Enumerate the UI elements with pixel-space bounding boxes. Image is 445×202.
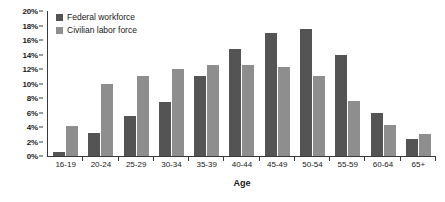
legend-label: Civilian labor force xyxy=(67,25,137,35)
y-tick-mark xyxy=(39,127,43,128)
y-tick-mark xyxy=(39,98,43,99)
y-tick-mark xyxy=(39,112,43,113)
bar-civilian xyxy=(137,76,149,156)
bar-group xyxy=(224,11,259,156)
bar-federal xyxy=(229,49,241,156)
bar-group xyxy=(330,11,365,156)
bar-group xyxy=(401,11,436,156)
bar-group xyxy=(365,11,400,156)
legend-item: Federal workforce xyxy=(56,11,137,23)
bar-civilian xyxy=(66,126,78,156)
bar-civilian xyxy=(384,125,396,156)
y-tick-mark xyxy=(39,141,43,142)
y-tick-label: 2% xyxy=(27,137,38,146)
y-tick-mark xyxy=(39,11,43,12)
bar-civilian xyxy=(101,84,113,157)
x-tick-label: 20-24 xyxy=(83,160,118,169)
x-tick-label: 25-29 xyxy=(119,160,154,169)
bar-federal xyxy=(406,139,418,156)
legend-swatch-icon xyxy=(56,14,63,21)
y-tick-label: 6% xyxy=(27,108,38,117)
y-tick-label: 4% xyxy=(27,123,38,132)
bar-civilian xyxy=(348,101,360,156)
x-tick-label: 55-59 xyxy=(330,160,365,169)
y-tick-label: 16% xyxy=(23,36,38,45)
x-tick-label: 60-64 xyxy=(365,160,400,169)
bar-group xyxy=(189,11,224,156)
bar-civilian xyxy=(278,67,290,156)
bar-civilian xyxy=(419,134,431,156)
y-tick-mark xyxy=(39,156,43,157)
legend-swatch-icon xyxy=(56,27,63,34)
x-tick-label: 16-19 xyxy=(48,160,83,169)
y-tick-label: 10% xyxy=(23,79,38,88)
bar-federal xyxy=(159,102,171,156)
y-tick-mark xyxy=(39,69,43,70)
bar-federal xyxy=(265,33,277,156)
y-tick-mark xyxy=(39,40,43,41)
bar-group xyxy=(295,11,330,156)
bar-chart: 20%18%16%14%12%10%8%6%4%2%0% 16-1920-242… xyxy=(0,0,445,202)
y-tick-mark xyxy=(39,25,43,26)
x-axis: 16-1920-2425-2930-3435-3940-4445-4950-54… xyxy=(48,160,436,169)
bar-group xyxy=(260,11,295,156)
bar-federal xyxy=(194,76,206,156)
bar-civilian xyxy=(172,69,184,156)
bar-federal xyxy=(371,113,383,157)
bar-federal xyxy=(88,133,100,156)
y-tick-mark xyxy=(39,54,43,55)
legend: Federal workforceCivilian labor force xyxy=(56,11,137,37)
bar-federal xyxy=(53,152,65,156)
bar-civilian xyxy=(242,65,254,156)
y-axis: 20%18%16%14%12%10%8%6%4%2%0% xyxy=(0,11,43,157)
y-tick-label: 8% xyxy=(27,94,38,103)
bar-civilian xyxy=(313,76,325,156)
y-tick-label: 14% xyxy=(23,50,38,59)
x-axis-title: Age xyxy=(48,178,436,188)
y-tick-label: 18% xyxy=(23,21,38,30)
bar-federal xyxy=(335,55,347,157)
legend-item: Civilian labor force xyxy=(56,24,137,36)
y-tick-label: 12% xyxy=(23,65,38,74)
y-tick-mark xyxy=(39,83,43,84)
x-tick-label: 40-44 xyxy=(224,160,259,169)
x-tick-label: 65+ xyxy=(401,160,436,169)
bar-civilian xyxy=(207,65,219,156)
x-tick-label: 35-39 xyxy=(189,160,224,169)
y-tick-label: 0% xyxy=(27,152,38,161)
x-tick-label: 50-54 xyxy=(295,160,330,169)
x-tick-label: 30-34 xyxy=(154,160,189,169)
x-tick-label: 45-49 xyxy=(260,160,295,169)
y-tick-label: 20% xyxy=(23,7,38,16)
legend-label: Federal workforce xyxy=(67,12,135,22)
bar-federal xyxy=(300,29,312,156)
bar-group xyxy=(154,11,189,156)
bar-federal xyxy=(124,116,136,156)
